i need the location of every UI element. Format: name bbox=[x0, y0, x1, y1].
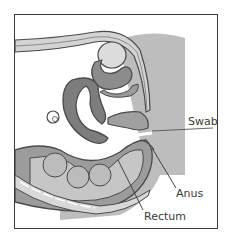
vaginal-canal bbox=[108, 112, 148, 130]
bladder bbox=[98, 42, 126, 68]
stool-segment bbox=[43, 153, 67, 177]
stool-segment bbox=[89, 164, 111, 186]
label-anus: Anus bbox=[176, 188, 203, 199]
stool-segment bbox=[67, 166, 89, 188]
label-swab: Swab bbox=[188, 116, 218, 127]
label-rectum: Rectum bbox=[144, 211, 186, 222]
